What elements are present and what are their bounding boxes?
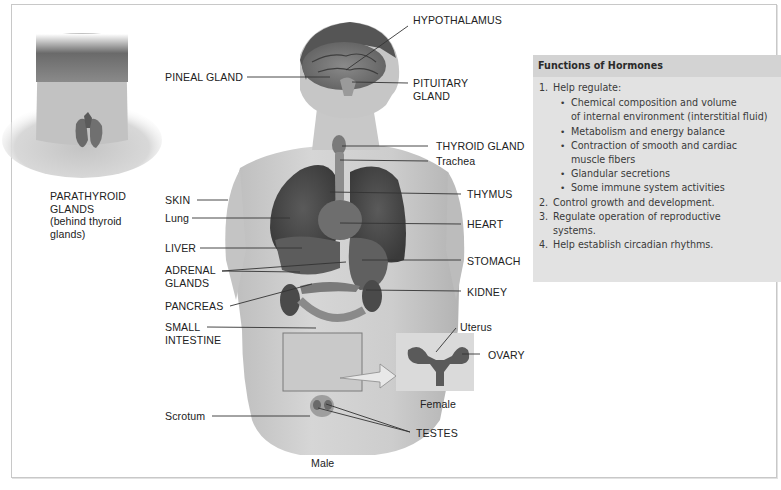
function-item-2: 2. Control growth and development. xyxy=(539,196,781,210)
label-thyroid-gland: THYROID GLAND xyxy=(436,140,524,153)
label-thymus: THYMUS xyxy=(467,188,512,201)
item-number: 2. xyxy=(539,196,548,210)
label-scrotum: Scrotum xyxy=(165,410,205,423)
neck-back-view xyxy=(2,33,162,178)
heart xyxy=(318,200,362,240)
caption-male: Male xyxy=(311,457,334,470)
label-pineal-gland: PINEAL GLAND xyxy=(165,71,243,84)
bullet-icon: • xyxy=(560,125,565,139)
label-testes: TESTES xyxy=(416,427,458,440)
label-parathyroid: PARATHYROID GLANDS (behind thyroid gland… xyxy=(50,190,126,240)
label-pancreas: PANCREAS xyxy=(165,300,223,313)
label-pituitary-gland: PITUITARY GLAND xyxy=(413,77,468,102)
label-kidney: KIDNEY xyxy=(467,286,507,299)
sub-item: •Metabolism and energy balance xyxy=(553,125,781,139)
function-item-1: 1. Help regulate: •Chemical composition … xyxy=(539,81,781,196)
item-text: Help establish circadian rhythms. xyxy=(553,239,713,250)
item-number: 1. xyxy=(539,81,548,95)
infobox-body: 1. Help regulate: •Chemical composition … xyxy=(533,77,781,252)
sub-item-text: Some immune system activities xyxy=(571,182,725,193)
label-adrenal-glands: ADRENAL GLANDS xyxy=(165,264,216,289)
sub-item: •Some immune system activities xyxy=(553,181,781,195)
pelvic-cover-box xyxy=(283,333,362,391)
item-text: Help regulate: xyxy=(553,82,621,93)
functions-of-hormones-box: Functions of Hormones 1. Help regulate: … xyxy=(533,55,781,282)
sub-list: •Chemical composition and volume of inte… xyxy=(553,96,781,195)
infobox-title: Functions of Hormones xyxy=(533,55,781,77)
sub-item-text: Glandular secretions xyxy=(571,168,670,179)
item-text: Control growth and development. xyxy=(553,197,715,208)
label-skin: SKIN xyxy=(165,194,190,207)
item-text: Regulate operation of reproductive syste… xyxy=(553,211,721,236)
female-inset xyxy=(396,333,474,391)
left-kidney xyxy=(280,284,300,316)
sub-item: •Glandular secretions xyxy=(553,167,781,181)
sub-item: •Contraction of smooth and cardiac muscl… xyxy=(553,139,781,167)
sub-item-text: Contraction of smooth and cardiac muscle… xyxy=(571,140,737,165)
item-number: 4. xyxy=(539,238,548,252)
label-hypothalamus: HYPOTHALAMUS xyxy=(413,14,502,27)
sub-item-text: Chemical composition and volume of inter… xyxy=(571,97,767,122)
label-ovary: OVARY xyxy=(488,349,525,362)
bullet-icon: • xyxy=(560,139,565,153)
bullet-icon: • xyxy=(560,167,565,181)
label-small-intestine: SMALL INTESTINE xyxy=(165,321,221,346)
sub-item-text: Metabolism and energy balance xyxy=(571,126,725,137)
label-trachea: Trachea xyxy=(436,155,475,168)
trachea xyxy=(335,152,344,202)
caption-female: Female xyxy=(420,398,456,411)
label-heart: HEART xyxy=(467,218,503,231)
label-liver: LIVER xyxy=(165,242,196,255)
label-uterus: Uterus xyxy=(460,321,492,334)
bullet-icon: • xyxy=(560,96,565,110)
label-stomach: STOMACH xyxy=(467,255,520,268)
function-item-4: 4. Help establish circadian rhythms. xyxy=(539,238,781,252)
label-lung: Lung xyxy=(165,212,189,225)
hair xyxy=(36,34,128,82)
sub-item: •Chemical composition and volume of inte… xyxy=(553,96,781,124)
right-kidney xyxy=(362,280,382,312)
item-number: 3. xyxy=(539,210,548,224)
function-item-3: 3. Regulate operation of reproductive sy… xyxy=(539,210,781,238)
liver xyxy=(275,236,340,274)
bullet-icon: • xyxy=(560,181,565,195)
